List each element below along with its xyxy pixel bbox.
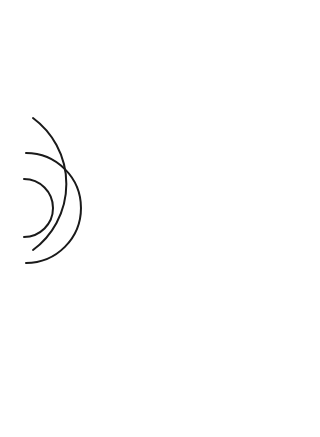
diagram-canvas [0, 0, 320, 437]
wavefronts [24, 118, 81, 263]
wavefront-1 [24, 179, 53, 237]
wave-diffraction-diagram [0, 0, 320, 437]
wavefront-3 [33, 118, 66, 250]
